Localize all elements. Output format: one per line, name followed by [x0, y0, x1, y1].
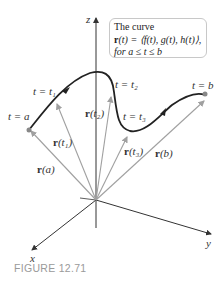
label-r-t1: r(t₁)	[53, 137, 72, 148]
curve-definition-callout: The curve r(t) = ⟨f(t), g(t), h(t)⟩, for…	[109, 18, 207, 58]
vector-r-b	[96, 101, 204, 200]
label-t-a: t = a	[8, 111, 29, 122]
callout-line-2: r(t) = ⟨f(t), g(t), h(t)⟩,	[114, 34, 202, 47]
y-axis-label: y	[206, 238, 211, 249]
label-t-3: t = t₃	[123, 111, 146, 122]
label-t-2: t = t₂	[115, 79, 138, 90]
end-point-b	[203, 92, 208, 97]
callout-line-1: The curve	[114, 21, 202, 34]
label-t-b: t = b	[192, 80, 213, 91]
figure-caption: FIGURE 12.71	[14, 262, 86, 274]
label-r-b: r(b)	[155, 148, 173, 159]
callout-line-3: for a ≤ t ≤ b	[114, 46, 202, 59]
z-axis-label: z	[86, 14, 90, 25]
label-t-1: t = t₁	[33, 86, 56, 97]
start-point-a	[27, 128, 32, 133]
x-axis	[32, 200, 96, 250]
y-axis	[96, 200, 211, 234]
label-r-a: r(a)	[37, 164, 55, 175]
label-r-t3: r(t₃)	[124, 146, 143, 157]
label-r-t2: r(t₂)	[85, 108, 104, 119]
